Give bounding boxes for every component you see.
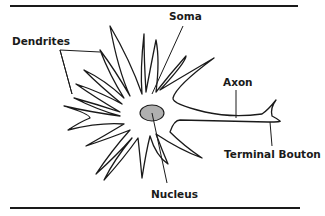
neuron-diagram: Soma Dendrites Axon Terminal Bouton Nucl… bbox=[0, 0, 325, 216]
label-dendrites: Dendrites bbox=[12, 35, 70, 47]
label-nucleus: Nucleus bbox=[151, 188, 198, 200]
dendrites-leader-2 bbox=[60, 50, 72, 94]
label-soma: Soma bbox=[169, 10, 202, 22]
label-terminal-bouton: Terminal Bouton bbox=[224, 148, 321, 160]
label-axon: Axon bbox=[223, 76, 253, 88]
terminal-bouton-leader bbox=[270, 122, 272, 146]
